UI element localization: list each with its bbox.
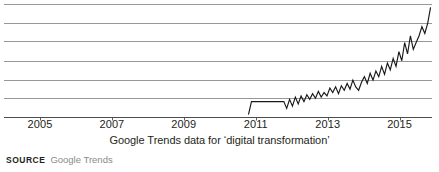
line-chart-svg [0,0,439,124]
source-label: SOURCE [6,155,45,165]
chart-caption: Google Trends data for ‘digital transfor… [0,133,439,147]
x-tick-label-2011: 2011 [244,117,268,131]
x-axis-tick-labels: 200520072009201120132015 [0,117,439,133]
source-line: SOURCEGoogle Trends [6,154,113,166]
x-tick-label-2013: 2013 [315,117,340,131]
google-trends-figure: 200520072009201120132015 Google Trends d… [0,0,439,172]
x-tick-label-2009: 2009 [171,117,196,131]
chart-plot-area [0,0,439,124]
x-tick-label-2015: 2015 [387,117,412,131]
x-tick-label-2005: 2005 [28,117,53,131]
source-value: Google Trends [50,154,112,165]
gridline-group [4,5,432,99]
x-tick-label-2007: 2007 [99,117,124,131]
